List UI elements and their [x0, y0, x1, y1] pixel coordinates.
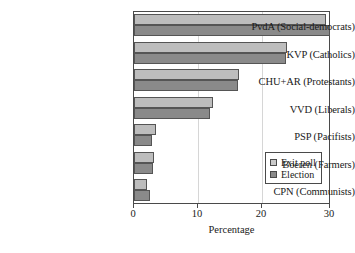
bar-election	[134, 163, 153, 174]
ytick-label-vvd: VVD (Liberals)	[225, 104, 355, 115]
ytick-label-kvp: KVP (Catholics)	[225, 49, 355, 60]
x-axis-label: Percentage	[133, 224, 330, 235]
ytick-label-psp: PSP (Pacifists)	[225, 131, 355, 142]
ytick-label-chu-ar: CHU+AR (Protestants)	[225, 76, 355, 87]
bar-election	[134, 108, 210, 119]
bar-election	[134, 190, 150, 201]
chart-figure: Exit poll Election PvdA (Social-democrat…	[0, 0, 355, 253]
bar-election	[134, 80, 238, 91]
xtick-label-10: 10	[184, 208, 210, 219]
bar-exit-poll	[134, 179, 147, 190]
xtick-label-30: 30	[316, 208, 342, 219]
ytick-label-pvda: PvdA (Social-democrats)	[225, 21, 355, 32]
bar-exit-poll	[134, 152, 154, 163]
legend-label: Election	[281, 169, 314, 180]
bar-exit-poll	[134, 124, 156, 135]
bar-exit-poll	[134, 69, 239, 80]
legend-swatch-icon	[270, 171, 277, 178]
bar-exit-poll	[134, 97, 213, 108]
ytick-label-boeren: Boeren (Farmers)	[225, 159, 355, 170]
xtick-label-20: 20	[248, 208, 274, 219]
bar-election	[134, 135, 152, 146]
xtick-label-0: 0	[120, 208, 146, 219]
ytick-label-cpn: CPN (Communists)	[225, 186, 355, 197]
